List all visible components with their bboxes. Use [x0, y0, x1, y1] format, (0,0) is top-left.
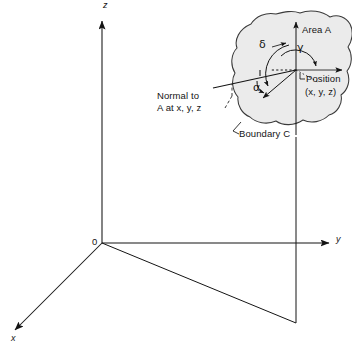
area-a-boundary-curve [232, 11, 352, 125]
boundary-c-label: Boundary C [239, 128, 290, 139]
alpha-angle-label: α [253, 82, 260, 93]
technical-diagram: z y x 0 Area A Position (x, y, z) Normal… [0, 0, 352, 351]
base-projection-line [102, 243, 296, 323]
area-a-label: Area A [302, 24, 331, 35]
normal-label-leader [225, 84, 232, 108]
x-axis-label: x [11, 333, 16, 344]
delta-angle-label: δ [259, 39, 266, 50]
position-label: Position [306, 73, 341, 84]
area-a-surface [232, 11, 352, 125]
y-axis-label: y [336, 234, 341, 245]
gamma-angle-label: γ [297, 42, 304, 53]
z-axis-label: z [103, 0, 108, 11]
projection-construction-lines [102, 137, 296, 323]
origin-label: 0 [92, 236, 97, 247]
normal-label-line2: A at x, y, z [157, 102, 201, 113]
x-axis-line [15, 243, 102, 330]
normal-label-line1: Normal to [157, 90, 199, 101]
position-coords-label: (x, y, z) [305, 86, 336, 97]
